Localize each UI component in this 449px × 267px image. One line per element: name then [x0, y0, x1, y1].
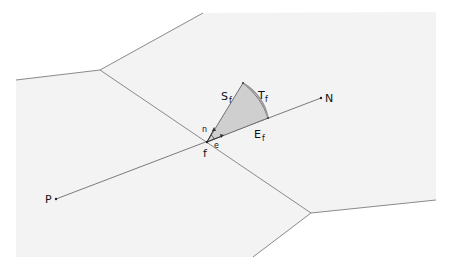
finite-volume-diagram: P N f n e S f T f E f — [0, 0, 449, 267]
label-E-sub: f — [262, 134, 265, 143]
point-P — [55, 198, 57, 200]
label-S: S — [221, 90, 228, 103]
label-S-sub: f — [229, 96, 232, 105]
label-N: N — [325, 92, 333, 105]
label-e: e — [214, 141, 219, 150]
label-T-sub: f — [265, 95, 268, 104]
label-P: P — [45, 193, 52, 206]
point-f — [206, 141, 208, 143]
point-N — [320, 97, 322, 99]
label-E: E — [254, 128, 261, 141]
point-apex — [242, 82, 244, 84]
label-T: T — [257, 89, 265, 102]
label-n: n — [202, 125, 207, 134]
point-right — [267, 117, 269, 119]
